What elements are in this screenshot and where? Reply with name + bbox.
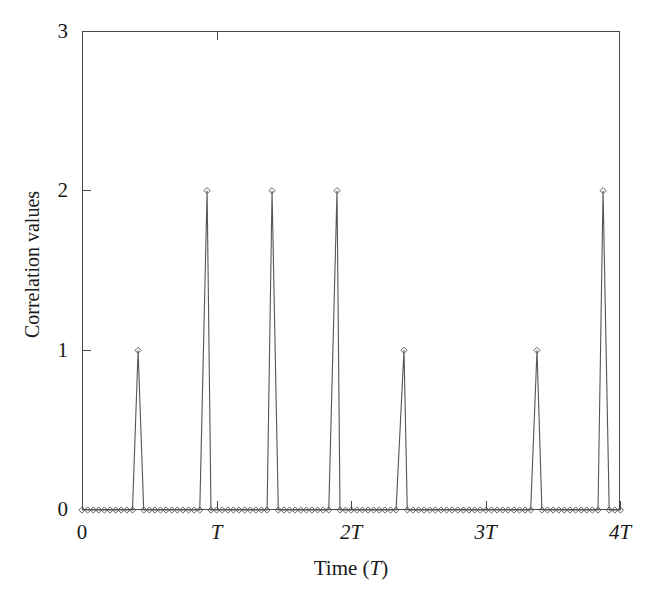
y-tick-label-2: 2 (58, 180, 69, 201)
x-axis-title-var: T (370, 556, 382, 580)
x-tick-label-3-text: 3T (474, 520, 496, 544)
x-tick-label-4-text: 4T (609, 520, 631, 544)
x-axis-title-prefix: Time ( (314, 556, 370, 580)
y-tick-label-0: 0 (58, 499, 69, 520)
x-tick-mark-top-1 (217, 31, 218, 40)
x-tick-mark-4 (620, 501, 621, 510)
y-axis-title: Correlation values (21, 155, 44, 375)
x-tick-mark-0 (82, 501, 83, 510)
y-tick-label-3: 3 (58, 21, 69, 42)
x-tick-label-1: T (211, 521, 223, 543)
plot-series-canvas (82, 31, 620, 510)
chart-figure: 3 2 1 0 Correlation values 0 T 2T 3T 4T … (0, 0, 665, 594)
x-tick-label-1-text: T (211, 520, 223, 544)
y-tick-label-1: 1 (58, 340, 69, 361)
x-axis-title: Time (T) (82, 556, 620, 581)
correlation-series (79, 188, 624, 514)
x-tick-label-4: 4T (609, 521, 631, 543)
x-tick-label-0: 0 (77, 521, 88, 543)
x-tick-label-2-text: 2T (340, 520, 362, 544)
x-tick-label-0-text: 0 (77, 520, 88, 544)
x-tick-mark-1 (217, 501, 218, 510)
x-tick-label-2: 2T (340, 521, 362, 543)
x-tick-mark-3 (486, 501, 487, 510)
x-axis-title-suffix: ) (381, 556, 388, 580)
x-tick-label-3: 3T (474, 521, 496, 543)
x-tick-mark-2 (351, 501, 352, 510)
